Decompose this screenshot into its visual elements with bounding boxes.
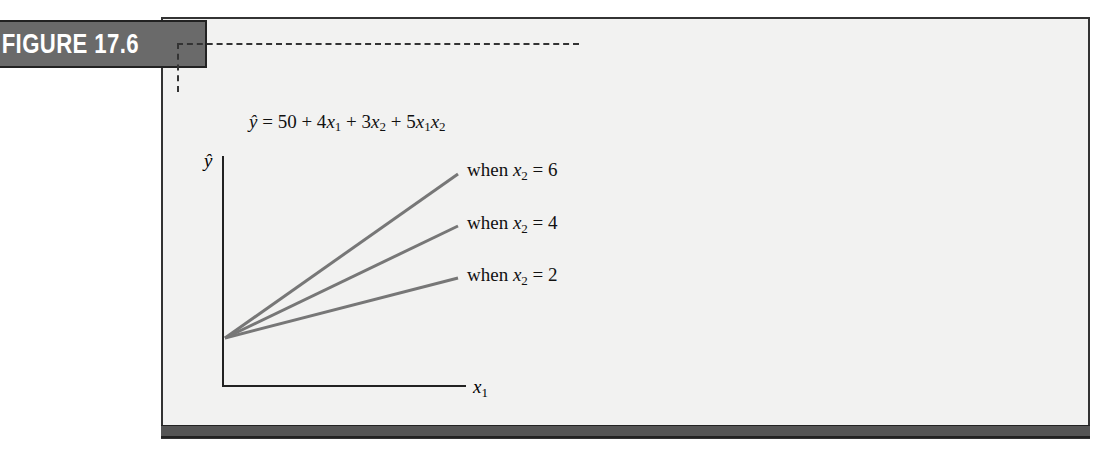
line-label-x2-4: when x2 = 4: [467, 212, 558, 237]
x-axis-label: x1: [473, 376, 488, 401]
line-x2-6: [225, 174, 458, 338]
y-axis-label: ŷ: [204, 150, 212, 172]
line-x2-2: [225, 278, 458, 338]
line-label-x2-2: when x2 = 2: [467, 264, 558, 289]
line-label-x2-6: when x2 = 6: [467, 159, 558, 184]
line-x2-4: [225, 226, 458, 338]
